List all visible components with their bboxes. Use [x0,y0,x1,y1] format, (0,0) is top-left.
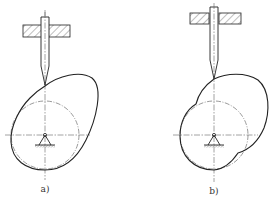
ground-icon [204,145,224,148]
panel-a: a) [5,10,98,194]
cam-profile [180,74,268,170]
panel-label-a: a) [41,184,50,194]
cam-profile [11,74,98,170]
panel-b: b) [173,3,268,196]
panel-label-b: b) [209,186,218,196]
ground-icon [35,145,55,148]
